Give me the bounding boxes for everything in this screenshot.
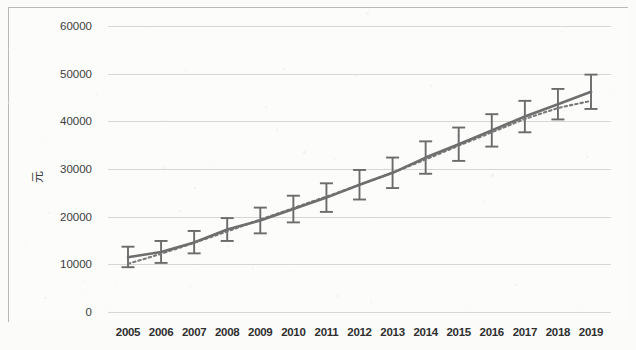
scan-speckle	[189, 286, 190, 287]
y-tick-50000: 50000	[60, 68, 92, 80]
y-tick-20000: 20000	[60, 211, 92, 223]
scan-speckle	[303, 151, 306, 154]
scan-speckle	[82, 280, 84, 282]
scan-speckle	[370, 223, 371, 224]
gridline-0	[108, 312, 611, 313]
gridline-50000	[108, 74, 611, 75]
scan-speckle	[370, 301, 372, 303]
gridline-20000	[108, 217, 611, 218]
scan-speckle	[290, 264, 291, 265]
scan-speckle	[44, 297, 46, 299]
y-tick-0: 0	[86, 306, 92, 318]
x-tick-2017: 2017	[513, 326, 537, 338]
scan-speckle	[430, 84, 432, 86]
scan-speckle	[366, 12, 368, 14]
x-tick-2009: 2009	[248, 326, 272, 338]
scan-speckle	[334, 158, 336, 160]
x-tick-2019: 2019	[579, 326, 603, 338]
x-tick-2006: 2006	[149, 326, 173, 338]
scan-speckle	[426, 313, 427, 314]
scan-speckle	[354, 74, 357, 77]
gridline-30000	[108, 169, 611, 170]
x-tick-2005: 2005	[116, 326, 140, 338]
scan-speckle	[491, 174, 494, 177]
scan-speckle	[116, 281, 118, 283]
scan-speckle	[620, 111, 621, 112]
y-tick-40000: 40000	[60, 115, 92, 127]
x-tick-2016: 2016	[480, 326, 504, 338]
x-tick-2018: 2018	[546, 326, 570, 338]
x-tick-2012: 2012	[347, 326, 371, 338]
scan-speckle	[283, 68, 285, 70]
y-tick-60000: 60000	[60, 20, 92, 32]
scan-speckle	[209, 162, 210, 163]
scan-speckle	[194, 187, 196, 189]
scan-speckle	[561, 31, 562, 32]
gridline-60000	[108, 26, 611, 27]
scan-speckle	[227, 245, 229, 247]
scan-speckle	[365, 204, 366, 205]
y-tick-30000: 30000	[60, 163, 92, 175]
gridline-40000	[108, 121, 611, 122]
x-tick-2010: 2010	[281, 326, 305, 338]
scan-speckle	[269, 44, 270, 45]
scan-speckle	[162, 167, 165, 170]
x-tick-2014: 2014	[413, 326, 437, 338]
scan-speckle	[25, 244, 26, 245]
gridline-10000	[108, 264, 611, 265]
scan-speckle	[179, 210, 181, 212]
x-tick-2007: 2007	[182, 326, 206, 338]
scan-speckle	[469, 305, 471, 307]
x-tick-2008: 2008	[215, 326, 239, 338]
scan-speckle	[160, 120, 161, 121]
y-tick-10000: 10000	[60, 258, 92, 270]
x-tick-2015: 2015	[447, 326, 471, 338]
chart-figure: 元 60000 50000 40000 30000 20000 10000 0 …	[0, 0, 636, 350]
scan-speckle	[85, 290, 87, 292]
scan-speckle	[106, 305, 108, 307]
y-axis-tick-labels: 60000 50000 40000 30000 20000 10000 0	[0, 26, 100, 312]
x-tick-2013: 2013	[380, 326, 404, 338]
scan-speckle	[577, 309, 579, 311]
scan-speckle	[45, 135, 48, 138]
scan-speckle	[276, 129, 278, 131]
x-tick-2011: 2011	[315, 326, 339, 338]
plot-area	[108, 26, 611, 312]
scan-speckle	[95, 93, 98, 96]
